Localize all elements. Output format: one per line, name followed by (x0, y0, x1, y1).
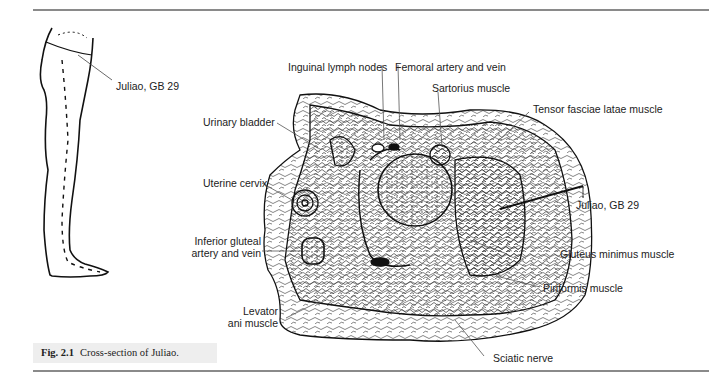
bottom-rule (33, 370, 709, 372)
anatomy-illustration (0, 0, 709, 387)
label-piriformis: Piriformis muscle (543, 282, 623, 294)
label-inferior-gluteal-1: Inferior gluteal (184, 235, 261, 247)
figure-number: Fig. 2.1 (41, 347, 74, 358)
figure-caption-text: Cross-section of Juliao. (80, 347, 179, 358)
label-juliao-point: Juliao, GB 29 (576, 199, 639, 211)
label-femoral-artery-vein: Femoral artery and vein (395, 61, 506, 73)
figure-caption: Fig. 2.1Cross-section of Juliao. (33, 343, 217, 363)
label-inferior-gluteal-2: artery and vein (184, 247, 261, 259)
label-uterine-cervix: Uterine cervix (203, 177, 267, 189)
label-gluteus-minimus: Gluteus minimus muscle (560, 248, 674, 260)
label-levator-2: ani muscle (200, 317, 278, 329)
label-tensor-fasciae-latae: Tensor fasciae latae muscle (533, 103, 663, 115)
label-levator-1: Levator (200, 305, 278, 317)
label-urinary-bladder: Urinary bladder (203, 116, 275, 128)
label-inguinal-lymph-nodes: Inguinal lymph nodes (288, 61, 387, 73)
label-sciatic-nerve: Sciatic nerve (493, 352, 553, 364)
leg-figure (40, 28, 112, 277)
label-sartorius-muscle: Sartorius muscle (432, 82, 510, 94)
leg-juliao-label: Juliao, GB 29 (116, 80, 179, 92)
